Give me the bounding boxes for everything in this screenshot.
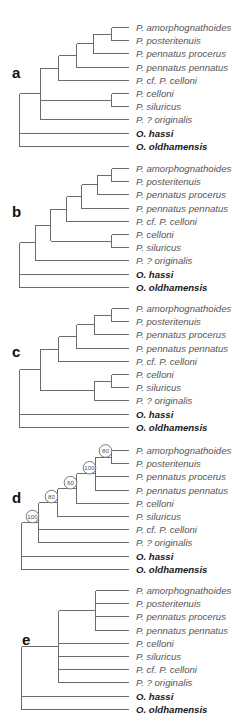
taxon-label: P. amorphognathoides (136, 303, 232, 314)
tree-panel-e: eP. amorphognathoidesP. posteritenuisP. … (22, 585, 232, 715)
outgroup-taxon-label: O. hassi (136, 691, 174, 702)
taxon-label: P. celloni (136, 88, 175, 99)
taxon-label: P. pennatus procerus (136, 189, 226, 200)
outgroup-taxon-label: O. hassi (136, 551, 174, 562)
taxon-label: P. siluricus (136, 511, 181, 522)
taxon-label: P. pennatus pennatus (136, 625, 228, 636)
outgroup-taxon-label: O. hassi (136, 409, 174, 420)
panel-letter: b (12, 203, 21, 220)
taxon-label: P. amorphognathoides (136, 445, 232, 456)
taxon-label: P. celloni (136, 638, 175, 649)
taxon-label: P. amorphognathoides (136, 22, 232, 33)
taxon-label: P. siluricus (136, 651, 181, 662)
panel-letter: c (12, 343, 20, 360)
taxon-label: P. pennatus procerus (136, 48, 226, 59)
taxon-label: P. pennatus pennatus (136, 203, 228, 214)
taxon-label: P. ? originalis (136, 255, 193, 266)
taxon-label: P. pennatus pennatus (136, 62, 228, 73)
taxon-label: P. cf. P. celloni (136, 524, 198, 535)
panel-letter: e (22, 631, 30, 648)
support-value: 100 (27, 513, 38, 520)
support-value: 80 (48, 493, 55, 500)
taxon-label: P. siluricus (136, 382, 181, 393)
taxon-label: P. posteritenuis (136, 316, 201, 327)
taxon-label: P. posteritenuis (136, 35, 201, 46)
support-value: 60 (67, 479, 74, 486)
taxon-label: P. amorphognathoides (136, 163, 232, 174)
outgroup-taxon-label: O. oldhamensis (136, 141, 207, 152)
taxon-label: P. pennatus pennatus (136, 343, 228, 354)
taxon-label: P. cf. P. celloni (136, 664, 198, 675)
taxon-label: P. cf. P. celloni (136, 216, 198, 227)
taxon-label: P. celloni (136, 229, 175, 240)
taxon-label: P. posteritenuis (136, 598, 201, 609)
taxon-label: P. cf. P. celloni (136, 356, 198, 367)
taxon-label: P. pennatus pennatus (136, 485, 228, 496)
outgroup-taxon-label: O. oldhamensis (136, 564, 207, 575)
taxon-label: P. amorphognathoides (136, 585, 232, 596)
taxon-label: P. siluricus (136, 101, 181, 112)
tree-panel-d: dP. amorphognathoidesP. posteritenuisP. … (12, 445, 232, 575)
outgroup-taxon-label: O. hassi (136, 128, 174, 139)
support-value: 100 (84, 464, 95, 471)
taxon-label: P. posteritenuis (136, 458, 201, 469)
taxon-label: P. ? originalis (136, 114, 193, 125)
taxon-label: P. pennatus procerus (136, 611, 226, 622)
panel-letter: d (12, 489, 21, 506)
outgroup-taxon-label: O. oldhamensis (136, 704, 207, 715)
taxon-label: P. siluricus (136, 242, 181, 253)
taxon-label: P. celloni (136, 369, 175, 380)
outgroup-taxon-label: O. oldhamensis (136, 422, 207, 433)
taxon-label: P. ? originalis (136, 537, 193, 548)
outgroup-taxon-label: O. oldhamensis (136, 282, 207, 293)
tree-panel-b: bP. amorphognathoidesP. posteritenuisP. … (12, 163, 232, 293)
outgroup-taxon-label: O. hassi (136, 269, 174, 280)
taxon-label: P. pennatus procerus (136, 471, 226, 482)
tree-panel-a: aP. amorphognathoidesP. posteritenuisP. … (12, 22, 232, 152)
taxon-label: P. ? originalis (136, 677, 193, 688)
taxon-label: P. ? originalis (136, 395, 193, 406)
panel-letter: a (12, 64, 21, 81)
taxon-label: P. posteritenuis (136, 176, 201, 187)
taxon-label: P. celloni (136, 498, 175, 509)
tree-panel-c: cP. amorphognathoidesP. posteritenuisP. … (12, 303, 232, 433)
taxon-label: P. pennatus procerus (136, 329, 226, 340)
support-value: 80 (102, 447, 109, 454)
phylogeny-figure: aP. amorphognathoidesP. posteritenuisP. … (0, 0, 248, 725)
taxon-label: P. cf. P. celloni (136, 75, 198, 86)
